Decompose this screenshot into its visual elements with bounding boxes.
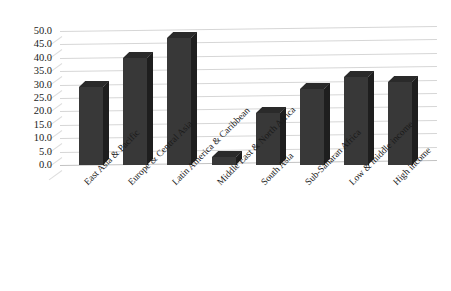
bar xyxy=(344,77,368,165)
bar-front-face xyxy=(344,77,369,165)
bar xyxy=(300,89,324,165)
bar-side-face xyxy=(147,52,153,165)
bar xyxy=(79,87,103,165)
x-axis-labels: East Asia & PacificEurope & Central Asia… xyxy=(0,176,451,291)
bar-side-face xyxy=(368,70,374,165)
bar-chart: 50.045.040.035.030.025.020.015.010.05.00… xyxy=(0,0,451,291)
bar-side-face xyxy=(191,31,197,165)
bar-front-face xyxy=(79,87,104,165)
bar-front-face xyxy=(300,89,325,165)
